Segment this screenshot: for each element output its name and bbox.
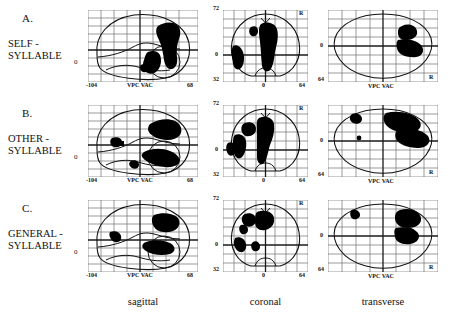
coronal-a-center-tick: 0	[215, 51, 218, 57]
row-letter-b: B.	[22, 107, 33, 119]
sagittal-b-right-tick: 68	[187, 177, 193, 183]
row-a-zero-label: 0	[74, 58, 78, 66]
panel-a-sagittal: -104 VPC VAC 68	[88, 10, 198, 82]
sagittal-c-left-tick: -104	[86, 272, 97, 278]
sagittal-c-landmarks: VPC VAC	[127, 272, 153, 278]
coronal-a-origin-tick: 0	[262, 82, 265, 88]
transverse-c-left-tick: 0	[320, 232, 323, 238]
row-name-a-line2: SYLLABLE	[8, 50, 62, 61]
transverse-c-bottom-left-tick: 64	[318, 266, 324, 272]
transverse-b-left-tick: 0	[320, 137, 323, 143]
view-caption-coronal: coronal	[223, 296, 308, 307]
transverse-svg-a	[328, 10, 438, 82]
sagittal-b-left-tick: -104	[86, 177, 97, 183]
sagittal-a-landmarks: VPC VAC	[127, 82, 153, 88]
row-name-b: OTHER - SYLLABLE	[8, 133, 62, 157]
view-caption-transverse: transverse	[328, 296, 438, 307]
row-letter-a: A.	[22, 12, 33, 24]
view-caption-sagittal: sagittal	[88, 296, 198, 307]
coronal-c-origin-tick: 0	[262, 272, 265, 278]
row-name-a-line1: SELF -	[8, 38, 39, 49]
sagittal-svg-c	[88, 200, 198, 272]
sagittal-svg-a	[88, 10, 198, 82]
transverse-a-hemisphere-marker: R	[429, 74, 433, 80]
coronal-b-center-tick: 0	[215, 146, 218, 152]
transverse-svg-b	[328, 105, 438, 177]
row-name-b-line2: SYLLABLE	[8, 145, 62, 156]
row-letter-c: C.	[22, 202, 33, 214]
transverse-svg-c	[328, 200, 438, 272]
sagittal-b-landmarks: VPC VAC	[127, 177, 153, 183]
panel-b-transverse: 0 64 R VPC VAC	[328, 105, 438, 177]
coronal-c-bottom-tick: 32	[213, 266, 219, 272]
row-name-c-line2: SYLLABLE	[8, 240, 62, 251]
coronal-a-bottom-tick: 32	[213, 76, 219, 82]
transverse-a-bottom-left-tick: 64	[318, 76, 324, 82]
coronal-b-right-tick: 64	[299, 177, 305, 183]
row-name-a: SELF - SYLLABLE	[8, 38, 62, 62]
transverse-b-hemisphere-marker: R	[429, 169, 433, 175]
coronal-svg-c	[223, 200, 308, 272]
row-name-b-line1: OTHER -	[8, 133, 49, 144]
coronal-svg-a	[223, 10, 308, 82]
sagittal-svg-b	[88, 105, 198, 177]
sagittal-a-left-tick: -104	[86, 82, 97, 88]
row-b-zero-label: 0	[74, 153, 78, 161]
panel-c-transverse: 0 64 R VPC VAC	[328, 200, 438, 272]
panel-b-sagittal: -104 VPC VAC 68	[88, 105, 198, 177]
coronal-b-origin-tick: 0	[262, 177, 265, 183]
brain-activation-figure: A. SELF - SYLLABLE 0	[0, 0, 451, 320]
sagittal-c-right-tick: 68	[187, 272, 193, 278]
coronal-c-top-tick: 72	[213, 195, 219, 201]
coronal-c-hemisphere-marker: R	[299, 200, 303, 206]
coronal-a-top-tick: 72	[213, 5, 219, 11]
row-name-c-line1: GENERAL -	[8, 228, 63, 239]
coronal-c-right-tick: 64	[299, 272, 305, 278]
transverse-a-left-tick: 0	[320, 42, 323, 48]
coronal-c-center-tick: 0	[215, 241, 218, 247]
coronal-a-hemisphere-marker: R	[299, 10, 303, 16]
panel-c-sagittal: -104 VPC VAC 68	[88, 200, 198, 272]
transverse-c-hemisphere-marker: R	[429, 264, 433, 270]
row-name-c: GENERAL - SYLLABLE	[8, 228, 63, 252]
coronal-b-bottom-tick: 32	[213, 171, 219, 177]
coronal-b-hemisphere-marker: R	[299, 105, 303, 111]
panel-a-transverse: 0 64 R VPC VAC	[328, 10, 438, 82]
sagittal-a-right-tick: 68	[187, 82, 193, 88]
panel-b-coronal: 72 0 32 0 64 R	[223, 105, 308, 177]
panel-a-coronal: 72 0 32 0 64 R	[223, 10, 308, 82]
coronal-b-top-tick: 72	[213, 100, 219, 106]
transverse-b-bottom-left-tick: 64	[318, 171, 324, 177]
transverse-a-landmarks: VPC VAC	[368, 83, 394, 89]
coronal-a-right-tick: 64	[299, 82, 305, 88]
transverse-b-landmarks: VPC VAC	[368, 178, 394, 184]
row-c-zero-label: 0	[74, 248, 78, 256]
transverse-c-landmarks: VPC VAC	[368, 273, 394, 279]
coronal-svg-b	[223, 105, 308, 177]
panel-c-coronal: 72 0 32 0 64 R	[223, 200, 308, 272]
